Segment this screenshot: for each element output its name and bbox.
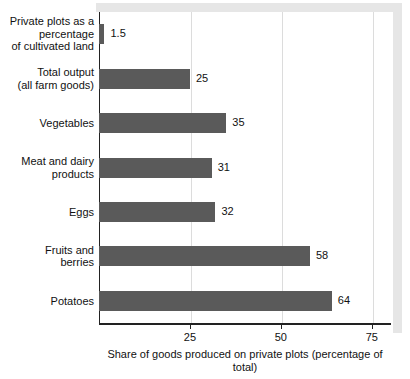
tick-mark-25	[190, 324, 191, 329]
x-tick-label: 75	[366, 331, 378, 343]
category-label: Vegetables	[40, 117, 94, 130]
bar	[99, 202, 215, 222]
bar-value-label: 35	[232, 116, 244, 128]
bar	[99, 158, 212, 178]
tick-mark-50	[281, 324, 282, 329]
bar-value-label: 58	[316, 249, 328, 261]
x-tick-label: 50	[275, 331, 287, 343]
bar-value-label: 32	[221, 205, 233, 217]
bar-value-label: 25	[196, 72, 208, 84]
bar-value-label: 31	[218, 161, 230, 173]
category-label: Private plots as a percentage of cultiva…	[10, 15, 94, 53]
bar-value-label: 64	[338, 294, 350, 306]
gridline-75	[373, 12, 374, 324]
bar-chart: 255075 Share of goods produced on privat…	[0, 0, 410, 379]
gridline-50	[282, 12, 283, 324]
category-label: Potatoes	[51, 295, 94, 308]
bar-value-label: 1.5	[110, 27, 125, 39]
category-label: Eggs	[69, 206, 94, 219]
tick-mark-75	[372, 324, 373, 329]
bar	[99, 69, 190, 89]
x-axis-title: Share of goods produced on private plots…	[99, 348, 391, 374]
category-label: Fruits and berries	[45, 244, 94, 269]
bar	[99, 24, 104, 44]
bar	[99, 291, 332, 311]
category-label: Total output (all farm goods)	[18, 66, 94, 91]
plot-frame-shadow-top	[96, 3, 402, 12]
plot-frame-shadow-right	[393, 3, 402, 333]
x-tick-label: 25	[184, 331, 196, 343]
bar	[99, 246, 310, 266]
x-axis-line	[99, 323, 391, 325]
bar	[99, 113, 226, 133]
category-label: Meat and dairy products	[21, 155, 94, 180]
